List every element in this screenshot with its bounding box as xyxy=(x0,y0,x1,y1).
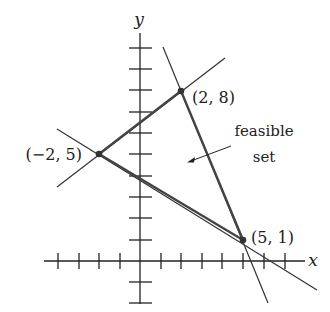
vertex-neg2-5 xyxy=(96,151,103,158)
feasible-set-label-line1: feasible xyxy=(234,122,293,140)
vertex-2-8 xyxy=(178,88,185,95)
vertex-label-5-1: (5, 1) xyxy=(251,228,294,247)
y-axis-label: y xyxy=(133,9,144,29)
x-axis-label: x xyxy=(308,250,318,270)
feasible-set-diagram: y x (2, 8) (−2, 5) (5, 1) feasible set xyxy=(0,0,330,312)
vertex-label-neg2-5: (−2, 5) xyxy=(26,145,82,164)
feasible-region-boundary xyxy=(99,91,243,240)
vertex-label-2-8: (2, 8) xyxy=(192,88,235,107)
y-axis xyxy=(129,33,152,304)
feasible-set-label-line2: set xyxy=(253,148,276,166)
x-axis xyxy=(44,253,305,269)
constraint-lines xyxy=(57,47,317,303)
vertex-5-1 xyxy=(240,237,247,244)
